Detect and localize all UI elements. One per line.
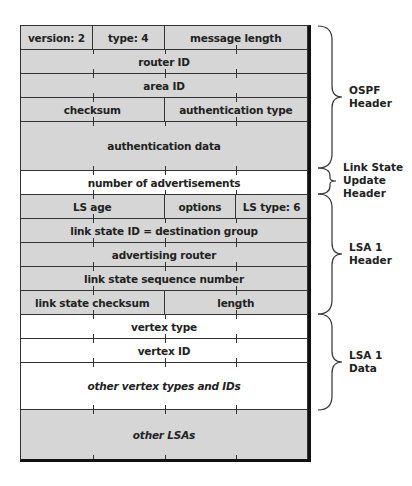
brace-label-line: OSPF [349,84,392,97]
brace-label-line: Data [349,362,382,375]
brace-lsa1-header [318,194,342,314]
brace-lsu-header [318,168,336,194]
brace-label-line: Header [349,254,392,267]
brace-label-line: LSA 1 [349,349,382,362]
brace-label-line: Header [349,97,392,110]
brace-lsa1-data [318,314,342,410]
label-lsa1-data: LSA 1 Data [349,349,382,375]
brace-label-line: Header [343,187,403,200]
brace-ospf-header [318,26,342,168]
brace-label-line: LSA 1 [349,241,392,254]
brace-label-line: Update [343,174,403,187]
label-lsa1-header: LSA 1 Header [349,241,392,267]
label-lsu-header: Link State Update Header [343,161,403,200]
brace-label-line: Link State [343,161,403,174]
label-ospf-header: OSPF Header [349,84,392,110]
